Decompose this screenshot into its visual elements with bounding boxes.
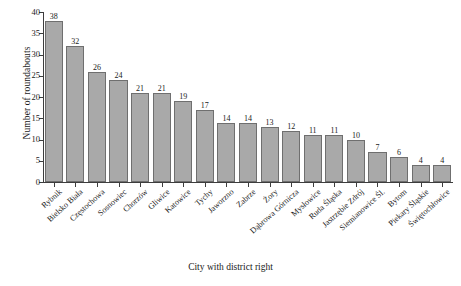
x-tick-mark bbox=[226, 183, 227, 187]
bar-value-label: 4 bbox=[440, 156, 444, 165]
bar: 38 bbox=[45, 21, 63, 183]
bar-value-label: 13 bbox=[266, 118, 274, 127]
x-tick-mark bbox=[421, 183, 422, 187]
bar-chart-figure: Number of roundabouts 0510152025303540 3… bbox=[0, 0, 461, 286]
bar-value-label: 21 bbox=[136, 84, 144, 93]
y-tick-label: 25 bbox=[32, 69, 41, 81]
y-tick-label: 35 bbox=[32, 27, 41, 39]
plot-area: 0510152025303540 38322624212119171414131… bbox=[43, 12, 453, 182]
x-tick-mark bbox=[75, 183, 76, 187]
y-tick-label: 5 bbox=[36, 154, 40, 166]
y-axis-title: Number of roundabouts bbox=[22, 3, 32, 183]
y-tick-label: 30 bbox=[32, 48, 41, 60]
x-tick-mark bbox=[442, 183, 443, 187]
bar-value-label: 21 bbox=[158, 84, 166, 93]
bar-value-label: 24 bbox=[115, 71, 123, 80]
y-tick-label: 10 bbox=[32, 133, 41, 145]
bar-value-label: 7 bbox=[375, 143, 379, 152]
bar-value-label: 12 bbox=[287, 122, 295, 131]
x-tick-mark bbox=[377, 183, 378, 187]
bar-value-label: 10 bbox=[352, 131, 360, 140]
bar-value-label: 11 bbox=[330, 126, 338, 135]
bar: 32 bbox=[66, 46, 84, 182]
y-tick-label: 20 bbox=[32, 91, 41, 103]
bar-value-label: 38 bbox=[50, 12, 58, 21]
x-tick-mark bbox=[248, 183, 249, 187]
x-tick-mark bbox=[54, 183, 55, 187]
x-tick-mark bbox=[205, 183, 206, 187]
x-tick-mark bbox=[183, 183, 184, 187]
x-tick-mark bbox=[119, 183, 120, 187]
x-tick-mark bbox=[162, 183, 163, 187]
bar: 12 bbox=[282, 131, 300, 182]
x-tick-mark bbox=[334, 183, 335, 187]
bar-value-label: 17 bbox=[201, 101, 209, 110]
y-tick-label: 15 bbox=[32, 112, 41, 124]
x-tick-mark bbox=[97, 183, 98, 187]
bar-value-label: 14 bbox=[244, 114, 252, 123]
y-tick-label: 40 bbox=[32, 6, 41, 18]
bar-value-label: 14 bbox=[222, 114, 230, 123]
x-tick-mark bbox=[270, 183, 271, 187]
x-axis-title: City with district right bbox=[0, 262, 461, 272]
x-tick-mark bbox=[140, 183, 141, 187]
bar-value-label: 11 bbox=[309, 126, 317, 135]
x-tick-mark bbox=[313, 183, 314, 187]
bar-value-label: 26 bbox=[93, 63, 101, 72]
x-tick-mark bbox=[399, 183, 400, 187]
x-tick-mark bbox=[356, 183, 357, 187]
y-tick-label: 0 bbox=[36, 176, 40, 188]
x-tick-mark bbox=[291, 183, 292, 187]
bar-value-label: 19 bbox=[179, 92, 187, 101]
bar-value-label: 32 bbox=[71, 37, 79, 46]
